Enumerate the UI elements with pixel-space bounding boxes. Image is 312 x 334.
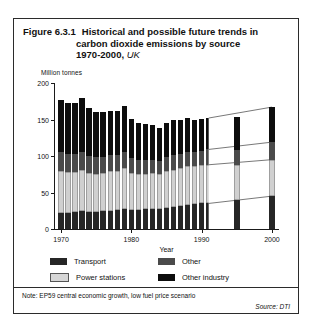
bar-segment-transport (234, 200, 240, 229)
x-tick (131, 229, 132, 233)
projection-bar-1995 (234, 83, 240, 229)
figure-note: Note: EP59 central economic growth, low … (22, 292, 195, 299)
legend-item-other-industry: Other industry (158, 273, 266, 282)
projection-envelope (54, 83, 279, 229)
figure-title-line-1: Historical and possible future trends in (82, 26, 258, 38)
y-axis-title: Million tonnes (41, 69, 82, 76)
figure-container: Figure 6.3.1 Historical and possible fut… (13, 18, 299, 314)
figure-title-line-2: carbon dioxide emissions by source (76, 38, 291, 50)
y-tick-label: 100 (37, 153, 49, 160)
bar-segment-other (234, 150, 240, 165)
x-tick (61, 229, 62, 233)
legend-label-other: Other (182, 257, 201, 266)
x-axis-title: Year (54, 246, 279, 253)
figure-number: Figure 6.3.1 (23, 26, 76, 37)
legend-label-transport: Transport (74, 257, 106, 266)
note-separator (14, 287, 298, 288)
x-tick (272, 229, 273, 233)
x-tick-label: 1970 (53, 236, 69, 243)
x-tick-label: 1980 (124, 236, 140, 243)
bar-segment-industry (269, 107, 275, 142)
x-tick (202, 229, 203, 233)
bar-segment-other (269, 142, 275, 160)
figure-title-years: 1970-2000, (76, 49, 124, 60)
legend-item-other: Other (158, 257, 266, 266)
x-tick-label: 1990 (194, 236, 210, 243)
x-tick-label: 2000 (264, 236, 280, 243)
figure-title-block: Figure 6.3.1 Historical and possible fut… (23, 26, 291, 61)
bar-segment-power (234, 165, 240, 199)
chart-plot-area: 050100150200 1970198019902000 Year (54, 83, 279, 229)
figure-title-region: UK (127, 49, 140, 60)
legend-label-other-industry: Other industry (182, 273, 229, 282)
legend-label-power-stations: Power stations (76, 273, 125, 282)
legend-swatch-power-stations (50, 273, 69, 282)
y-tick-label: 200 (37, 80, 49, 87)
y-tick-label: 0 (45, 226, 49, 233)
y-tick-label: 150 (37, 116, 49, 123)
figure-title-line-3: 1970-2000, UK (76, 49, 291, 61)
legend-item-transport: Transport (50, 257, 158, 266)
legend-item-power-stations: Power stations (50, 273, 158, 282)
legend-swatch-other (158, 258, 175, 265)
bar-segment-power (269, 160, 275, 197)
legend-swatch-other-industry (158, 274, 175, 281)
legend-swatch-transport (50, 258, 67, 265)
chart-legend: Transport Other Power stations Other ind… (50, 257, 280, 282)
y-tick (51, 229, 55, 230)
y-tick-label: 50 (41, 189, 49, 196)
bar-segment-transport (269, 196, 275, 229)
projection-bar-2000 (269, 83, 275, 229)
bar-segment-industry (234, 117, 240, 150)
figure-source: Source: DTI (255, 303, 290, 310)
